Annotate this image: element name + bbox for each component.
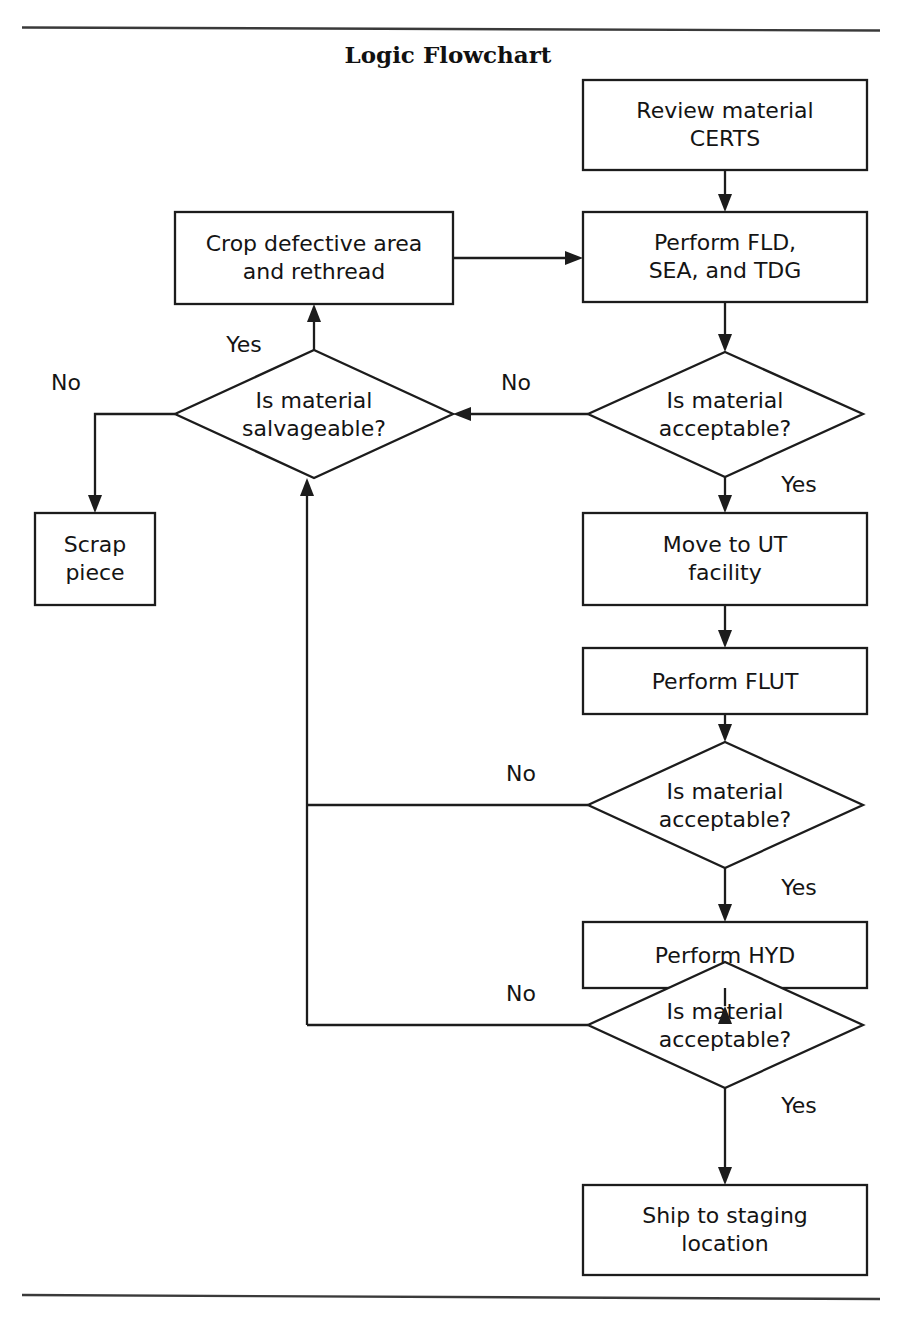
node-move-ut-line2: facility (688, 560, 761, 585)
edge-acceptable1-yes-to-move-ut: Yes (718, 472, 817, 513)
edge-flut-to-acceptable2 (718, 714, 732, 742)
node-perform-fld-line2: SEA, and TDG (649, 258, 802, 283)
edge-label-acceptable3-no: No (506, 981, 536, 1006)
edge-acceptable1-no-to-salvageable: No (453, 370, 588, 421)
node-acceptable-1-diamond (588, 352, 863, 477)
edge-label-salvageable-no: No (51, 370, 81, 395)
node-acceptable-2-decision: Is material acceptable? (588, 742, 863, 868)
edge-label-acceptable2-no: No (506, 761, 536, 786)
node-salvageable-decision: Is material salvageable? (175, 350, 453, 478)
edge-label-acceptable2-yes: Yes (780, 875, 817, 900)
node-perform-flut: Perform FLUT (583, 648, 867, 714)
node-acceptable-1-decision: Is material acceptable? (588, 352, 863, 477)
edge-crop-to-fld (453, 251, 583, 265)
node-perform-flut-line1: Perform FLUT (652, 669, 799, 694)
edge-label-salvageable-yes: Yes (225, 332, 262, 357)
node-review-certs-line1: Review material (636, 98, 813, 123)
node-scrap-piece-line2: piece (65, 560, 124, 585)
node-crop-rethread-line1: Crop defective area (206, 231, 423, 256)
node-salvageable-line2: salvageable? (242, 416, 386, 441)
figure-title: Logic Flowchart (345, 41, 552, 68)
node-acceptable-2-diamond (588, 742, 863, 868)
node-scrap-piece-line1: Scrap (64, 532, 127, 557)
edge-label-acceptable3-yes: Yes (780, 1093, 817, 1118)
node-perform-fld-line1: Perform FLD, (654, 230, 796, 255)
node-move-ut-line1: Move to UT (663, 532, 788, 557)
node-ship-staging-line2: location (681, 1231, 768, 1256)
edge-acceptable3-no-to-salvageable: No (307, 981, 588, 1025)
edge-salvageable-no-to-scrap: No (51, 370, 175, 513)
edge-salvageable-yes-to-crop: Yes (225, 304, 321, 357)
node-crop-rethread: Crop defective area and rethread (175, 212, 453, 304)
node-move-ut-box (583, 513, 867, 605)
node-acceptable-2-line2: acceptable? (659, 807, 792, 832)
node-crop-rethread-box (175, 212, 453, 304)
edge-label-acceptable1-no: No (501, 370, 531, 395)
bottom-divider-rule (22, 1295, 880, 1299)
node-review-certs-line2: CERTS (690, 126, 760, 151)
node-review-certs-box (583, 80, 867, 170)
edge-review-to-fld (718, 170, 732, 212)
node-acceptable-1-line2: acceptable? (659, 416, 792, 441)
node-scrap-piece: Scrap piece (35, 513, 155, 605)
node-move-ut: Move to UT facility (583, 513, 867, 605)
node-acceptable-3-line2: acceptable? (659, 1027, 792, 1052)
edge-label-acceptable1-yes: Yes (780, 472, 817, 497)
node-acceptable-1-line1: Is material (667, 388, 784, 413)
node-salvageable-line1: Is material (256, 388, 373, 413)
node-ship-staging-box (583, 1185, 867, 1275)
logic-flowchart-figure: Logic Flowchart Review material CERTS Cr… (0, 0, 897, 1323)
node-salvageable-diamond (175, 350, 453, 478)
node-review-certs: Review material CERTS (583, 80, 867, 170)
top-divider-rule (22, 28, 880, 31)
node-scrap-piece-box (35, 513, 155, 605)
edge-move-ut-to-flut (718, 605, 732, 648)
node-crop-rethread-line2: and rethread (243, 259, 386, 284)
edge-fld-to-acceptable1 (718, 302, 732, 352)
node-perform-fld: Perform FLD, SEA, and TDG (583, 212, 867, 302)
edge-acceptable2-no-to-salvageable: No (307, 761, 588, 805)
node-perform-fld-box (583, 212, 867, 302)
node-acceptable-2-line1: Is material (667, 779, 784, 804)
edge-acceptable3-yes-to-ship: Yes (718, 1088, 817, 1185)
node-ship-staging-line1: Ship to staging (642, 1203, 808, 1228)
edge-acceptable2-yes-to-hyd: Yes (718, 868, 817, 922)
node-ship-staging: Ship to staging location (583, 1185, 867, 1275)
edge-return-line-to-salvageable (300, 478, 314, 1025)
